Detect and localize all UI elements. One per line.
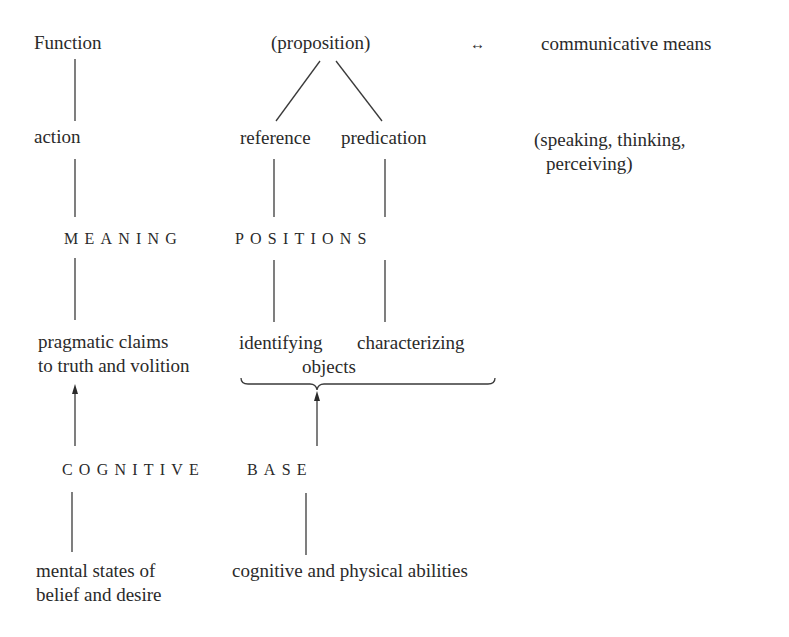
label-reference: reference	[240, 127, 311, 149]
label-base: BASE	[247, 460, 313, 480]
brace-objects	[241, 378, 495, 390]
line-proposition-predication	[336, 61, 382, 121]
arrowhead-up-icon	[72, 384, 78, 394]
label-positions: POSITIONS	[235, 229, 373, 249]
label-identifying: identifying	[239, 332, 322, 354]
label-pragmatic-line1: pragmatic claims	[38, 331, 168, 353]
label-action: action	[34, 126, 80, 148]
label-proposition: (proposition)	[271, 32, 370, 54]
line-proposition-reference	[276, 61, 320, 121]
bidirectional-arrow-icon: ↔	[470, 33, 485, 55]
label-speaking-line1: (speaking, thinking,	[534, 129, 685, 151]
connector-lines	[0, 0, 789, 637]
label-meaning: MEANING	[64, 229, 183, 249]
label-communicative-means: communicative means	[541, 33, 711, 55]
label-pragmatic-line2: to truth and volition	[38, 355, 189, 377]
label-mental-line1: mental states of	[36, 560, 155, 582]
label-predication: predication	[341, 127, 426, 149]
label-abilities: cognitive and physical abilities	[232, 560, 468, 582]
label-objects: objects	[302, 356, 356, 378]
arrowhead-up-icon	[314, 391, 320, 401]
label-cognitive: COGNITIVE	[62, 460, 205, 480]
label-function: Function	[34, 32, 102, 54]
label-mental-line2: belief and desire	[36, 584, 162, 606]
label-speaking-line2: perceiving)	[546, 153, 633, 175]
label-characterizing: characterizing	[357, 332, 465, 354]
